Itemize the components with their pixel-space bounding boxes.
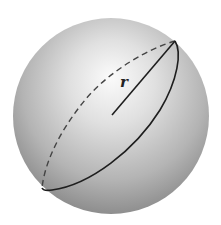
sphere-diagram: r (0, 0, 221, 225)
radius-label: r (120, 73, 129, 91)
